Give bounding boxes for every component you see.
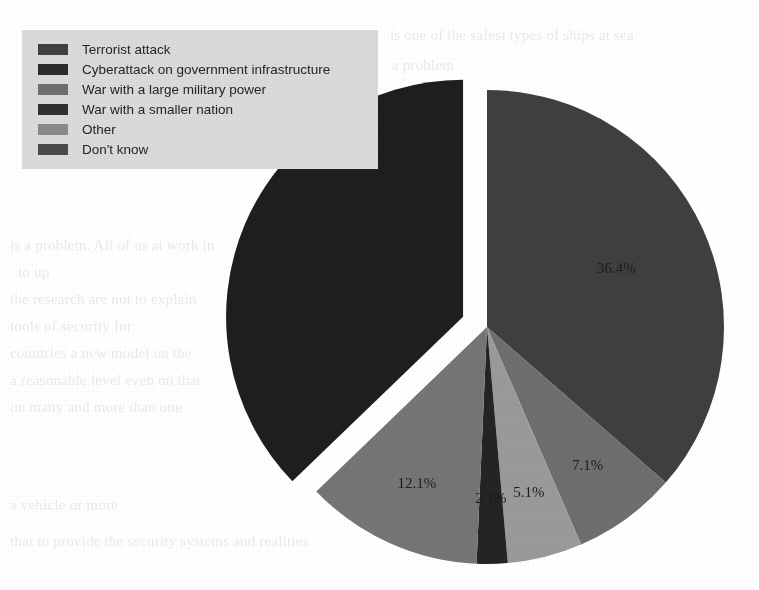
legend-item-war-large-power[interactable]: War with a large military power <box>38 80 364 99</box>
legend-item-dont-know[interactable]: Don't know <box>38 140 364 159</box>
pie-slice-value-label: 36.4% <box>597 260 636 276</box>
legend-item-cyberattack[interactable]: Cyberattack on government infrastructure <box>38 60 364 79</box>
legend-swatch-icon <box>38 44 68 55</box>
legend-item-other[interactable]: Other <box>38 120 364 139</box>
legend-item-label: Other <box>82 122 116 137</box>
legend-swatch-icon <box>38 64 68 75</box>
pie-slice-value-label: 12.1% <box>397 475 436 491</box>
pie-slice-value-label: 5.1% <box>513 484 544 500</box>
legend-item-label: Cyberattack on government infrastructure <box>82 62 330 77</box>
legend-item-label: Don't know <box>82 142 148 157</box>
pie-chart: 36.4%7.1%5.1%2.1%12.1% Terrorist attack … <box>0 0 759 590</box>
legend-swatch-icon <box>38 144 68 155</box>
legend-item-label: Terrorist attack <box>82 42 171 57</box>
legend-swatch-icon <box>38 124 68 135</box>
legend-item-label: War with a smaller nation <box>82 102 233 117</box>
legend-swatch-icon <box>38 84 68 95</box>
pie-slice-value-label: 7.1% <box>572 457 603 473</box>
legend-item-terrorist-attack[interactable]: Terrorist attack <box>38 40 364 59</box>
chart-legend: Terrorist attack Cyberattack on governme… <box>22 30 378 169</box>
legend-swatch-icon <box>38 104 68 115</box>
legend-item-war-smaller-nation[interactable]: War with a smaller nation <box>38 100 364 119</box>
legend-item-label: War with a large military power <box>82 82 266 97</box>
pie-slice-value-label: 2.1% <box>475 490 506 506</box>
